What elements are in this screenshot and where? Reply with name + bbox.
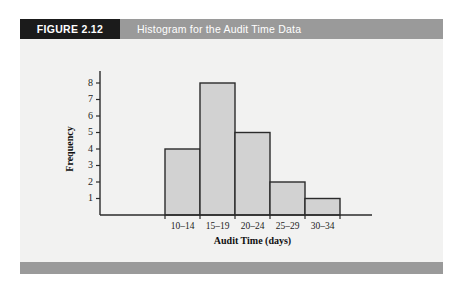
figure-number-block: FIGURE 2.12 bbox=[20, 19, 120, 39]
figure-title: Histogram for the Audit Time Data bbox=[137, 19, 301, 39]
figure-body-panel bbox=[20, 39, 443, 262]
figure-footer-bar bbox=[20, 262, 443, 274]
figure-container: FIGURE 2.12 Histogram for the Audit Time… bbox=[0, 0, 461, 292]
figure-number-label: FIGURE 2.12 bbox=[37, 23, 103, 35]
